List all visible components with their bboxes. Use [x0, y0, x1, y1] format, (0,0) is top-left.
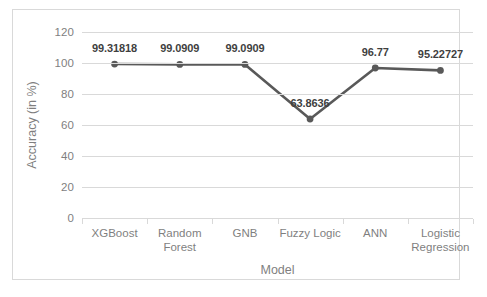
gridline — [82, 156, 473, 157]
y-axis-tick-label: 20 — [61, 181, 74, 193]
x-axis-tick-label: ANN — [343, 226, 408, 240]
x-axis-tick-label-line: Forest — [147, 240, 212, 254]
data-point-label: 63.8636 — [291, 97, 330, 109]
y-axis-tick-labels: 020406080100120 — [13, 10, 82, 241]
x-axis-title: Model — [82, 263, 473, 277]
x-axis-tick-label-line: GNB — [212, 226, 277, 240]
x-axis-tick-mark — [343, 219, 344, 224]
x-axis-tick-mark — [212, 219, 213, 224]
y-axis-tick-label: 100 — [55, 57, 75, 69]
gridline — [82, 32, 473, 33]
x-axis-tick-mark — [473, 219, 474, 224]
x-axis-tick-label: Fuzzy Logic — [278, 226, 343, 240]
gridline — [82, 187, 473, 188]
x-axis-tick-label-line: XGBoost — [82, 226, 147, 240]
x-axis-tick-label: XGBoost — [82, 226, 147, 240]
x-axis-tick-marks — [82, 219, 473, 224]
x-axis-tick-mark — [147, 219, 148, 224]
data-point-label: 99.0909 — [160, 42, 199, 54]
data-point-label: 99.0909 — [225, 42, 264, 54]
x-axis-tick-label-line: Fuzzy Logic — [278, 226, 343, 240]
gridline — [82, 63, 473, 64]
x-axis-tick-labels: XGBoostRandomForestGNBFuzzy LogicANNLogi… — [82, 226, 473, 264]
x-axis-tick-label-line: Logistic — [408, 226, 473, 240]
y-axis-tick-label: 120 — [55, 26, 75, 38]
chart-frame: Accuracy (in %) 020406080100120 99.31818… — [12, 9, 460, 280]
x-axis-tick-label-line: ANN — [343, 226, 408, 240]
y-axis-tick-label: 0 — [68, 212, 75, 224]
plot-area: 99.3181899.090999.090963.863696.7795.227… — [82, 32, 473, 218]
data-point-marker — [111, 61, 118, 68]
x-axis-tick-mark — [82, 219, 83, 224]
y-axis-tick-label: 40 — [61, 150, 74, 162]
data-point-label: 99.31818 — [92, 42, 137, 54]
data-point-label: 95.22727 — [418, 48, 463, 60]
data-point-marker — [437, 67, 444, 74]
x-axis-tick-mark — [278, 219, 279, 224]
data-point-marker — [307, 116, 314, 123]
gridline — [82, 94, 473, 95]
series-polyline — [115, 64, 441, 119]
x-axis-tick-label: RandomForest — [147, 226, 212, 254]
x-axis-tick-label-line: Regression — [408, 240, 473, 254]
x-axis-tick-mark — [408, 219, 409, 224]
y-axis-tick-label: 80 — [61, 88, 74, 100]
x-axis-tick-label: LogisticRegression — [408, 226, 473, 254]
data-point-marker — [372, 65, 379, 72]
data-point-label: 96.77 — [362, 46, 389, 58]
x-axis-tick-label: GNB — [212, 226, 277, 240]
x-axis-tick-label-line: Random — [147, 226, 212, 240]
y-axis-tick-label: 60 — [61, 119, 74, 131]
gridline — [82, 125, 473, 126]
